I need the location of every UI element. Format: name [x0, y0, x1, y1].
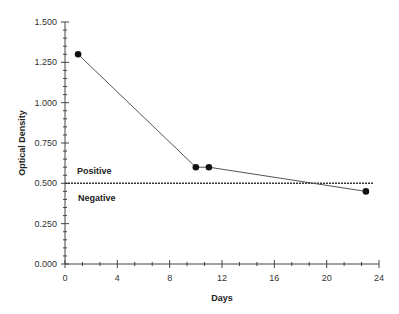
y-tick-label: 1.250 — [34, 57, 57, 67]
x-tick-label: 0 — [62, 273, 67, 283]
x-axis: 04812162024 — [62, 260, 384, 283]
y-tick-label: 0.750 — [34, 138, 57, 148]
data-line — [78, 54, 366, 191]
x-tick-label: 12 — [217, 273, 227, 283]
x-tick-label: 16 — [269, 273, 279, 283]
y-tick-label: 1.500 — [34, 17, 57, 27]
x-tick-label: 24 — [374, 273, 384, 283]
y-axis: 0.0000.2500.5000.7501.0001.2501.500 — [34, 17, 69, 269]
data-point — [75, 51, 82, 58]
x-tick-label: 4 — [115, 273, 120, 283]
data-point — [206, 164, 213, 171]
positive-label: Positive — [77, 166, 112, 176]
negative-label: Negative — [78, 193, 116, 203]
y-tick-label: 1.000 — [34, 98, 57, 108]
y-tick-label: 0.250 — [34, 219, 57, 229]
optical-density-chart: 0.0000.2500.5000.7501.0001.2501.500 0481… — [0, 0, 399, 314]
x-tick-label: 8 — [167, 273, 172, 283]
data-point — [363, 188, 370, 195]
data-point — [193, 164, 200, 171]
y-axis-label: Optical Density — [17, 110, 27, 176]
y-tick-label: 0.500 — [34, 178, 57, 188]
data-points — [75, 51, 369, 195]
x-tick-label: 20 — [322, 273, 332, 283]
x-axis-label: Days — [211, 293, 233, 303]
y-tick-label: 0.000 — [34, 259, 57, 269]
